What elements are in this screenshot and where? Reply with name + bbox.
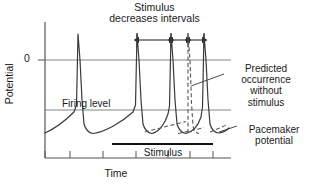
pacemaker-leader-line — [219, 126, 237, 132]
firing-level-annotation: Firing level — [62, 98, 110, 109]
pacemaker-potential-line1: Pacemaker — [239, 124, 309, 135]
stimulus-bar-label: Stimulus — [113, 147, 213, 158]
predicted-occurrence-line1: Predicted — [226, 63, 306, 74]
pacemaker-potential-line2: potential — [239, 135, 309, 146]
predicted-occurrence-annotation: Predicted occurrence without stimulus — [226, 63, 306, 108]
membrane-potential-trace — [45, 34, 229, 134]
action-potential-figure: Stimulus decreases intervals Potential 0… — [0, 0, 309, 187]
predicted-occurrence-line2: occurrence — [226, 74, 306, 85]
predicted-occurrence-line4: stimulus — [226, 97, 306, 108]
chart-title-line2: decreases intervals — [0, 13, 309, 25]
axis-group — [38, 22, 231, 158]
pacemaker-potential-annotation: Pacemaker potential — [239, 124, 309, 146]
predicted-occurrence-line3: without — [226, 85, 306, 96]
x-axis-label: Time — [66, 168, 166, 180]
y-axis-label: Potential — [4, 54, 16, 114]
y-axis-zero-tick-label: 0 — [24, 53, 30, 65]
